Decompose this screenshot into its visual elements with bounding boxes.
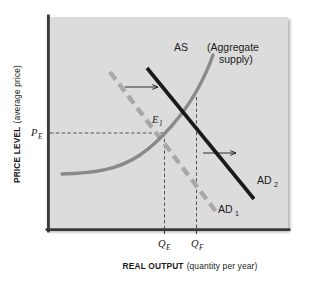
tick-label-pe-subscript: E bbox=[37, 133, 43, 141]
y-axis-title-bold: PRICE LEVEL bbox=[12, 127, 22, 184]
aggregate-supply-demand-chart: AS (Aggregate supply) AD 2 AD 1 E 1 P E … bbox=[0, 0, 333, 282]
curve-label-as: AS bbox=[174, 41, 188, 53]
x-axis-title: REAL OUTPUT(quantity per year) bbox=[123, 261, 258, 271]
y-axis-title-text: PRICE LEVEL(average price) bbox=[12, 65, 22, 183]
tick-label-qe: Q bbox=[158, 238, 166, 249]
as-note-line2: supply) bbox=[219, 53, 253, 65]
tick-label-qf: Q bbox=[191, 238, 199, 249]
curve-label-ad1-subscript: 1 bbox=[235, 209, 239, 218]
y-axis-title-regular: (average price) bbox=[12, 65, 22, 124]
tick-label-qe-subscript: E bbox=[165, 244, 171, 252]
curve-label-ad2: AD bbox=[257, 174, 272, 186]
curve-label-ad2-subscript: 2 bbox=[274, 180, 278, 189]
tick-label-pe: P bbox=[30, 127, 38, 138]
x-axis-title-bold: REAL OUTPUT bbox=[123, 261, 185, 271]
as-note-line1: (Aggregate bbox=[207, 41, 259, 53]
point-label-e1-subscript: 1 bbox=[159, 120, 163, 128]
figure-container: AS (Aggregate supply) AD 2 AD 1 E 1 P E … bbox=[0, 0, 333, 282]
tick-label-qf-subscript: F bbox=[198, 244, 204, 252]
point-label-e1: E bbox=[151, 114, 159, 125]
y-axis-title: PRICE LEVEL(average price) bbox=[12, 65, 22, 183]
x-axis-title-regular: (quantity per year) bbox=[187, 261, 258, 271]
curve-label-ad1: AD bbox=[218, 203, 233, 215]
